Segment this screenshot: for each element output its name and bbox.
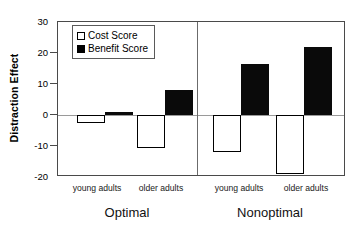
y-tick-label-30: 30: [4, 17, 48, 27]
bar-benefit-optimal-young: [105, 112, 133, 115]
legend-label-cost-score: Cost Score: [88, 31, 137, 41]
bar-benefit-nonoptimal-young: [241, 64, 269, 115]
x-category-label-optimal-older: older adults: [122, 183, 200, 193]
bar-benefit-nonoptimal-older: [304, 47, 332, 115]
x-category-label-nonoptimal-older: older adults: [267, 183, 345, 193]
bar-cost-optimal-young: [77, 115, 105, 123]
bar-cost-nonoptimal-older: [276, 115, 304, 174]
y-tick-label-neg10: -10: [4, 141, 48, 151]
open-square-icon: [77, 32, 85, 40]
bar-cost-optimal-older: [137, 115, 165, 148]
y-tick-label-10: 10: [4, 79, 48, 89]
y-tick-label-0: 0: [4, 110, 48, 120]
bar-benefit-optimal-older: [165, 90, 193, 115]
legend-label-benefit-score: Benefit Score: [88, 44, 148, 54]
panel-label-optimal: Optimal: [57, 205, 197, 220]
y-tick-label-neg20: -20: [4, 172, 48, 182]
distraction-effect-bar-chart: Distraction Effect 30 20 10 0 -10 -20 Co…: [0, 0, 360, 234]
bar-cost-nonoptimal-young: [213, 115, 241, 152]
legend-item-benefit-score: Benefit Score: [77, 42, 148, 55]
legend: Cost Score Benefit Score: [72, 25, 155, 59]
panel-label-nonoptimal: Nonoptimal: [200, 205, 340, 220]
filled-square-icon: [77, 45, 85, 53]
legend-item-cost-score: Cost Score: [77, 29, 148, 42]
panel-divider: [197, 22, 198, 175]
y-tick-label-20: 20: [4, 48, 48, 58]
